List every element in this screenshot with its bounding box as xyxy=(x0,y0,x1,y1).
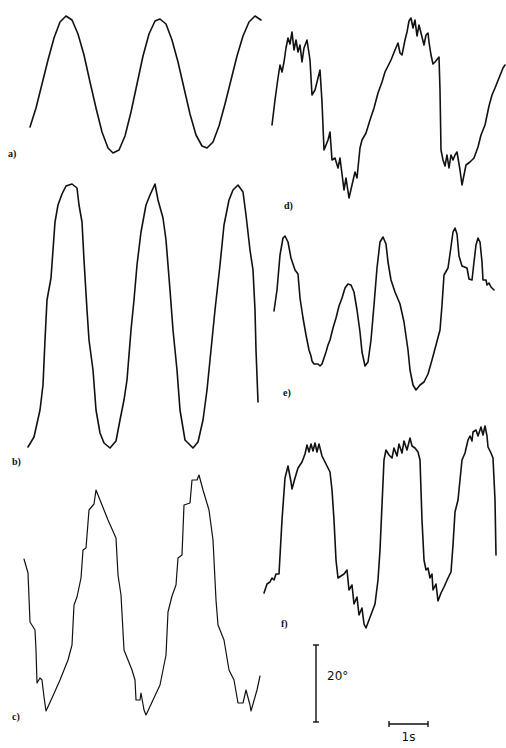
panel-label-d: d) xyxy=(284,200,293,212)
vertical-scale-bar: 20° xyxy=(313,645,348,722)
panel-label-b: b) xyxy=(12,456,21,468)
trace-c xyxy=(24,475,260,715)
horizontal-scale-bar: 1s xyxy=(389,721,428,744)
trace-b xyxy=(28,184,258,448)
oscillation-traces-figure: a)b)c)d)e)f) 20° 1s xyxy=(0,0,506,748)
vertical-scale-label: 20° xyxy=(327,669,348,683)
trace-d xyxy=(272,18,505,198)
horizontal-scale-label: 1s xyxy=(402,730,416,744)
trace-f xyxy=(264,426,496,628)
trace-a xyxy=(30,16,261,153)
panel-label-c: c) xyxy=(12,711,20,723)
traces-svg: a)b)c)d)e)f) 20° 1s xyxy=(0,0,506,748)
panel-label-a: a) xyxy=(8,148,16,160)
panel-label-f: f) xyxy=(281,618,288,630)
panel-label-group: a)b)c)d)e)f) xyxy=(8,148,293,723)
trace-e xyxy=(274,228,494,390)
scale-bars: 20° 1s xyxy=(313,645,428,744)
trace-group xyxy=(24,16,505,715)
panel-label-e: e) xyxy=(283,387,291,399)
